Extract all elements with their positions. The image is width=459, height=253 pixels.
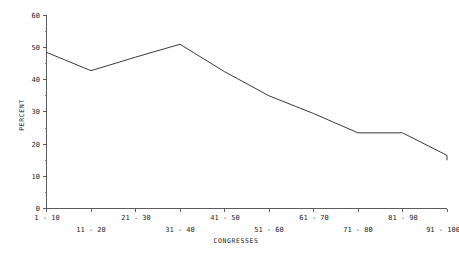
x-tick-label: 61 - 70 [299, 214, 329, 222]
y-tick-label: 60 [32, 12, 40, 20]
x-tick-label: 11 - 20 [76, 226, 106, 234]
x-tick-label: 1 - 10 [34, 214, 59, 222]
y-tick-label: 40 [32, 76, 40, 84]
x-axis-tick-labels-bottom-row: 11 - 20 31 - 40 51 - 60 71 - 80 91 - 100 [76, 226, 459, 234]
chart-canvas: 0 10 20 30 40 50 60 PERCENT 1 - 10 21 - [0, 0, 459, 253]
y-tick-label: 10 [32, 173, 40, 181]
x-tick-label: 71 - 80 [343, 226, 373, 234]
x-axis-tick-labels-top-row: 1 - 10 21 - 30 41 - 50 61 - 70 81 - 90 [34, 214, 417, 222]
x-axis-title: CONGRESSES [213, 237, 258, 245]
y-tick-label: 30 [32, 108, 40, 116]
y-tick-label: 50 [32, 44, 40, 52]
x-tick-label: 91 - 100 [426, 226, 459, 234]
y-tick-label: 0 [36, 205, 40, 213]
y-axis-tick-labels: 0 10 20 30 40 50 60 [32, 12, 40, 213]
y-axis-title: PERCENT [18, 99, 26, 131]
x-tick-label: 21 - 30 [121, 214, 151, 222]
x-tick-label: 81 - 90 [388, 214, 418, 222]
x-tick-label: 41 - 50 [210, 214, 240, 222]
data-series-line [47, 44, 448, 160]
y-tick-label: 20 [32, 141, 40, 149]
x-tick-label: 51 - 60 [254, 226, 284, 234]
line-chart-figure: 0 10 20 30 40 50 60 PERCENT 1 - 10 21 - [0, 0, 459, 253]
y-axis-major-ticks [43, 15, 47, 208]
x-tick-label: 31 - 40 [165, 226, 195, 234]
x-axis-major-ticks [47, 209, 448, 213]
